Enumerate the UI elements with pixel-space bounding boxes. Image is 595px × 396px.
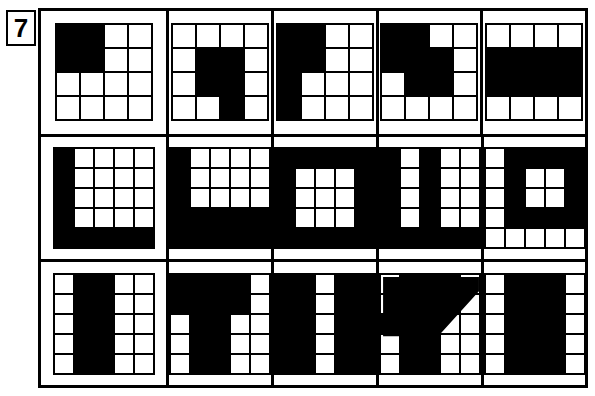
cell-r2-c2 xyxy=(191,169,209,187)
cell-r1-c4 xyxy=(441,275,459,293)
pattern-row2-option-d[interactable] xyxy=(484,147,586,249)
pattern-row1-option-c[interactable] xyxy=(380,23,478,121)
cell-r3-c2 xyxy=(511,73,533,95)
cell-r1-c3 xyxy=(95,149,113,167)
cell-r5-c4 xyxy=(336,229,354,247)
pattern-row1-option-a[interactable] xyxy=(171,23,269,121)
cell-r5-c4 xyxy=(336,355,354,373)
row1-question-cell xyxy=(41,11,169,134)
pattern-row3-option-b[interactable] xyxy=(274,273,376,375)
row3-option-d-cell[interactable] xyxy=(484,262,586,385)
cell-r1-c4 xyxy=(454,25,476,47)
cell-r4-c2 xyxy=(401,209,419,227)
cell-r5-c2 xyxy=(75,229,93,247)
cell-r2-c5 xyxy=(566,169,584,187)
cell-r4-c3 xyxy=(95,335,113,353)
cell-r3-c3 xyxy=(316,315,334,333)
cell-r3-c2 xyxy=(81,73,103,95)
cell-r3-c1 xyxy=(171,189,189,207)
cell-r5-c5 xyxy=(251,229,269,247)
cell-r5-c3 xyxy=(421,355,439,373)
pattern-row2-question xyxy=(53,147,155,249)
cell-r2-c3 xyxy=(211,169,229,187)
cell-r5-c1 xyxy=(486,355,504,373)
cell-r2-c5 xyxy=(461,295,479,313)
pattern-row2-option-a[interactable] xyxy=(169,147,271,249)
cell-r4-c1 xyxy=(381,335,399,353)
cell-r3-c5 xyxy=(251,189,269,207)
puzzle-frame xyxy=(38,8,588,388)
cell-r2-c1 xyxy=(486,295,504,313)
cell-r5-c4 xyxy=(115,355,133,373)
cell-r4-c4 xyxy=(231,209,249,227)
pattern-row3-option-c[interactable] xyxy=(379,273,481,375)
row3-option-b-cell[interactable] xyxy=(274,262,379,385)
cell-r2-c2 xyxy=(406,49,428,71)
pattern-row1-option-d[interactable] xyxy=(485,23,583,121)
cell-r2-c3 xyxy=(316,169,334,187)
cell-r4-c4 xyxy=(115,209,133,227)
row1-option-d-cell[interactable] xyxy=(483,11,585,134)
cell-r1-c5 xyxy=(461,275,479,293)
cell-r3-c1 xyxy=(486,315,504,333)
cell-r5-c3 xyxy=(421,229,439,247)
cell-r2-c3 xyxy=(211,295,229,313)
cell-r1-c3 xyxy=(526,275,544,293)
pattern-row2-option-c[interactable] xyxy=(379,147,481,249)
cell-r1-c4 xyxy=(546,275,564,293)
cell-r3-c4 xyxy=(115,315,133,333)
cell-r2-c3 xyxy=(326,49,348,71)
pattern-row1-option-b[interactable] xyxy=(276,23,374,121)
row1-option-b-cell[interactable] xyxy=(274,11,379,134)
row3-option-a-cell[interactable] xyxy=(169,262,274,385)
cell-r1-c3 xyxy=(421,149,439,167)
row1-option-a-cell[interactable] xyxy=(169,11,274,134)
cell-r4-c1 xyxy=(487,97,509,119)
row2-option-d-cell[interactable] xyxy=(484,137,586,260)
cell-r2-c2 xyxy=(296,169,314,187)
cell-r2-c3 xyxy=(95,169,113,187)
cell-r1-c5 xyxy=(356,275,374,293)
cell-r4-c4 xyxy=(454,97,476,119)
pattern-row3-option-d[interactable] xyxy=(484,273,586,375)
cell-r1-c4 xyxy=(441,149,459,167)
cell-r4-c2 xyxy=(506,335,524,353)
cell-r3-c3 xyxy=(430,73,452,95)
row1-option-c-cell[interactable] xyxy=(379,11,484,134)
cell-r3-c3 xyxy=(316,189,334,207)
pattern-row2-option-b[interactable] xyxy=(274,147,376,249)
cell-r1-c5 xyxy=(566,275,584,293)
row2-option-a-cell[interactable] xyxy=(169,137,274,260)
cell-r3-c5 xyxy=(356,315,374,333)
pattern-row3-option-a[interactable] xyxy=(169,273,271,375)
row2-option-b-cell[interactable] xyxy=(274,137,379,260)
cell-r3-c2 xyxy=(197,73,219,95)
row3-option-c-cell[interactable] xyxy=(379,262,484,385)
cell-r1-c3 xyxy=(535,25,557,47)
cell-r5-c4 xyxy=(441,355,459,373)
cell-r1-c2 xyxy=(197,25,219,47)
cell-r4-c5 xyxy=(251,335,269,353)
cell-r2-c4 xyxy=(350,49,372,71)
cell-r3-c1 xyxy=(173,73,195,95)
cell-r5-c5 xyxy=(566,229,584,247)
question-number-box: 7 xyxy=(6,10,36,46)
cell-r5-c5 xyxy=(135,229,153,247)
pattern-row3-question xyxy=(53,273,155,375)
cell-r1-c3 xyxy=(221,25,243,47)
cell-r4-c5 xyxy=(461,209,479,227)
cell-r2-c4 xyxy=(441,169,459,187)
cell-r2-c1 xyxy=(278,49,300,71)
cell-r2-c1 xyxy=(486,169,504,187)
cell-r4-c1 xyxy=(171,335,189,353)
row2-question-cell xyxy=(41,137,169,260)
row2-option-c-cell[interactable] xyxy=(379,137,484,260)
cell-r4-c3 xyxy=(105,97,127,119)
cell-r4-c1 xyxy=(486,209,504,227)
cell-r2-c4 xyxy=(336,169,354,187)
cell-r4-c2 xyxy=(401,335,419,353)
cell-r3-c4 xyxy=(336,189,354,207)
cell-r3-c4 xyxy=(546,189,564,207)
cell-r5-c4 xyxy=(231,355,249,373)
cell-r4-c2 xyxy=(296,335,314,353)
